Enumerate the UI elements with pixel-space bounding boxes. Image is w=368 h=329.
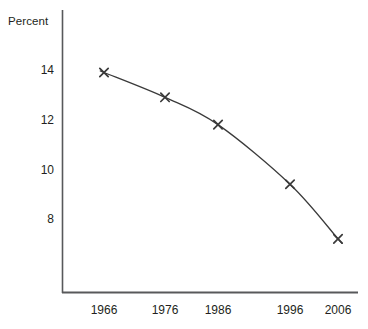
data-point-marker bbox=[161, 93, 169, 101]
data-point-markers bbox=[100, 68, 342, 243]
data-point-marker bbox=[214, 120, 222, 128]
data-point-marker bbox=[286, 180, 294, 188]
data-series-line bbox=[104, 72, 338, 238]
plot-area bbox=[0, 0, 368, 329]
line-chart: Percent 14 12 10 8 1966 1976 1986 1996 2… bbox=[0, 0, 368, 329]
